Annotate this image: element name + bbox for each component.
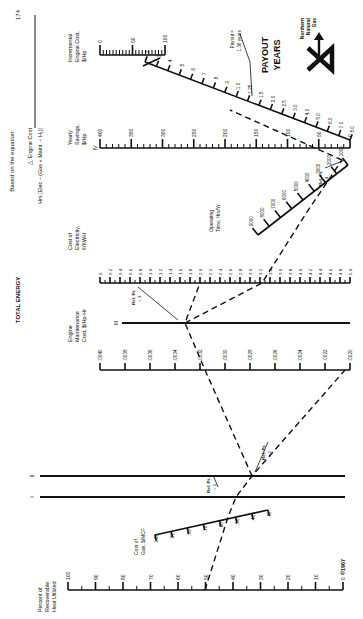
cost_of_electricity-tick-label: 4.2 bbox=[308, 268, 313, 275]
yearly_savings-tick-label: 200 bbox=[222, 128, 228, 137]
north-arrow-head-icon bbox=[314, 32, 324, 40]
cost_of_electricity-tick-label: 0.4 bbox=[118, 268, 123, 275]
operating_time-tick-label: 9000 bbox=[249, 216, 254, 227]
payout-title: YEARS bbox=[272, 39, 282, 70]
payout_years-tick-label: 5.0 bbox=[316, 113, 321, 120]
payout_years-tick-label: .8 bbox=[214, 76, 219, 80]
payout_years-tick-label: .6 bbox=[191, 68, 196, 72]
yearly_savings-tick-label: 250 bbox=[191, 128, 197, 137]
engine_maintenance_cost-tick-label: .0020 bbox=[348, 349, 353, 361]
engine_maintenance_cost-tick-label: .0040 bbox=[98, 349, 103, 361]
payout_years-tick bbox=[259, 100, 261, 106]
cost_of_electricity-tick-label: 2.2 bbox=[208, 268, 213, 275]
engine-maintenance-cost-label: Maintenance bbox=[74, 311, 80, 342]
ref-point-3-label: Ref. Pt. bbox=[131, 290, 136, 305]
operating_time-tick-label: 6000 bbox=[282, 189, 287, 200]
running-head: TOTAL ENERGY bbox=[15, 277, 21, 323]
solution-path-savings-payout bbox=[230, 110, 342, 160]
incremental_engine_cost-tick-label: 50 bbox=[130, 37, 136, 43]
solution-path-heat-gas-i-ii-maint bbox=[205, 370, 345, 590]
engine-maintenance-cost-label: Engine bbox=[67, 325, 73, 342]
cost_of_electricity-tick-label: 2.6 bbox=[228, 268, 233, 275]
yearly-savings-label: Savings, bbox=[74, 124, 80, 145]
payout_years-tick bbox=[191, 74, 193, 80]
payout_years-tick-label: 6.0 bbox=[328, 117, 333, 124]
payout_years-tick bbox=[179, 69, 181, 75]
cost-of-gas-label: Cost of bbox=[133, 539, 139, 555]
engine_maintenance_cost-tick-label: .0028 bbox=[248, 349, 253, 361]
incremental-engine-cost-label: $/Hp bbox=[81, 51, 87, 62]
cost_of_gas-tick-label: .50 bbox=[235, 518, 240, 525]
percent_recoverable_heat-tick-label: 10 bbox=[313, 574, 319, 580]
cost_of_electricity-tick-label: 1.4 bbox=[168, 268, 173, 275]
ref-point-1-label: = 1 bbox=[212, 483, 217, 490]
cost_of_electricity-tick-label: 0.8 bbox=[138, 268, 143, 275]
payout_years-tick-label: 1.5 bbox=[259, 91, 264, 98]
percent_recoverable_heat-tick-label: 90 bbox=[93, 574, 99, 580]
operating_time-tick bbox=[252, 228, 258, 235]
payout_years-tick-label: .2 bbox=[145, 50, 150, 54]
operating_time-tick bbox=[342, 158, 348, 165]
payout_years-tick-label: 2.5 bbox=[282, 100, 287, 107]
yearly-savings-label: Yearly bbox=[67, 130, 73, 145]
payout_years-tick bbox=[168, 65, 170, 71]
cost_of_gas-tick-label: .80 bbox=[187, 529, 192, 536]
yearly_savings-tick-label: 300 bbox=[160, 128, 166, 137]
percent_recoverable_heat-tick-label: 40 bbox=[230, 574, 236, 580]
cost_of_gas-tick-label: .90 bbox=[170, 532, 175, 539]
percent-recoverable-heat-label: Recoverable bbox=[44, 582, 50, 612]
engine_maintenance_cost-tick-label: .0022 bbox=[323, 349, 328, 361]
payout_years-tick bbox=[316, 121, 318, 127]
cost_of_electricity-tick-label: 3.0 bbox=[248, 268, 253, 275]
engine_maintenance_cost-tick-label: .0034 bbox=[173, 349, 178, 361]
payout_years-tick-label: 3.0 bbox=[293, 104, 298, 111]
page-number: 174 bbox=[15, 9, 21, 20]
yearly_savings-tick-label: 50 bbox=[316, 131, 322, 137]
reference-line-iv-label: IV bbox=[92, 145, 98, 150]
payout_years-tick-label: 1.0 bbox=[236, 82, 241, 89]
engine_maintenance_cost-tick-label: .0036 bbox=[148, 349, 153, 361]
cost_of_electricity-tick-label: 3.6 bbox=[278, 268, 283, 275]
engine_maintenance_cost-tick-label: .0026 bbox=[273, 349, 278, 361]
payout_years-tick bbox=[145, 56, 147, 62]
percent_recoverable_heat-tick-label: 80 bbox=[120, 574, 126, 580]
yearly-savings-label: $/Hp bbox=[81, 134, 87, 145]
payout-annotation: 1.36 years bbox=[237, 29, 242, 51]
operating_time-tick bbox=[297, 193, 303, 200]
operating_time-tick bbox=[309, 184, 315, 191]
payout_years-tick bbox=[304, 117, 306, 123]
cost_of_electricity-tick-label: 0.6 bbox=[128, 268, 133, 275]
percent_recoverable_heat-tick-label: 100 bbox=[65, 571, 71, 580]
payout_years-tick bbox=[225, 87, 227, 93]
engine-maintenance-cost-label: Cost, $/Hp-Hr bbox=[81, 309, 87, 342]
equation-prefix: Based on the equation: bbox=[9, 130, 15, 192]
cost_of_gas-tick-label: .40 bbox=[251, 515, 256, 522]
payout_years-tick bbox=[293, 113, 295, 119]
payout-title: PAYOUT bbox=[260, 36, 270, 73]
operating_time-tick-label: 4000 bbox=[305, 172, 310, 183]
percent_recoverable_heat-tick-label: 70 bbox=[148, 574, 154, 580]
cost_of_electricity-tick-label: 1.0 bbox=[148, 268, 153, 275]
cost-of-electricity-label: Electricity, bbox=[74, 225, 80, 250]
operating_time-tick bbox=[275, 210, 281, 217]
payout_years-tick bbox=[236, 91, 238, 97]
cost_of_electricity-tick-label: 5.0 bbox=[348, 268, 353, 275]
payout_years-tick bbox=[248, 95, 250, 101]
cost_of_gas-tick-label: .30 bbox=[267, 511, 272, 518]
percent-recoverable-heat-label: Heat Utilized bbox=[51, 581, 57, 612]
operating_time-tick-label: 7000 bbox=[271, 198, 276, 209]
payout_years-tick-label: .7 bbox=[202, 72, 207, 76]
yearly_savings-tick-label: 150 bbox=[253, 128, 259, 137]
payout_years-tick-label: 7.0 bbox=[339, 121, 344, 128]
cost_of_electricity-tick-label: 2.4 bbox=[218, 268, 223, 275]
operating-time-label: Time, Hrs/Yr bbox=[215, 204, 221, 232]
cost_of_gas-tick-label: .60 bbox=[219, 522, 224, 529]
operating_time-tick-label: 1000 bbox=[339, 146, 344, 157]
copyright: ©1967 bbox=[340, 559, 346, 575]
cost_of_electricity-tick-label: 0.2 bbox=[108, 268, 113, 275]
cost-of-electricity-label: Cost of bbox=[67, 232, 73, 250]
payout_years-tick bbox=[202, 78, 204, 84]
equation-denominator: Hrs [Elec − (Gas + Maint. − H₁)] bbox=[37, 128, 43, 204]
payout_years-tick-label: 2.0 bbox=[271, 95, 276, 102]
incremental_engine_cost-tick-label: 0 bbox=[97, 40, 103, 43]
